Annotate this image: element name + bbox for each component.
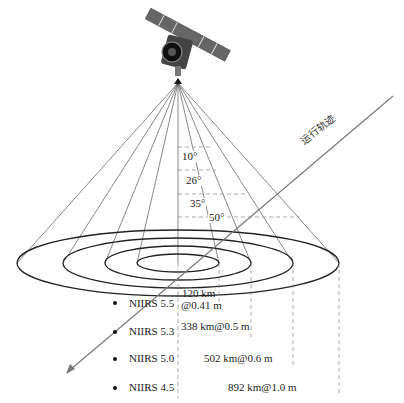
angle-label-35: 35°: [189, 198, 206, 209]
resolution-label-0-41m: @0.41 m: [181, 300, 222, 311]
niirs-label-5-3: NIIRS 5.3: [129, 326, 174, 337]
view-rays: [17, 83, 339, 263]
bullet-icon: [113, 301, 117, 305]
niirs-label-4-5: NIIRS 4.5: [129, 382, 174, 393]
niirs-label-5-5: NIIRS 5.5: [129, 298, 174, 309]
satellite-icon: [145, 8, 230, 84]
niirs-label-5-0: NIIRS 5.0: [129, 353, 174, 364]
bullet-icon: [113, 357, 117, 361]
orbit-arrow-icon: [66, 364, 75, 374]
swath-label-502km: 502 km@0.6 m: [204, 353, 273, 364]
bullet-icon: [113, 330, 117, 334]
swath-label-338km: 338 km@0.5 m: [181, 321, 250, 332]
angle-label-10: 10°: [181, 151, 198, 162]
angle-label-26: 26°: [185, 175, 202, 186]
swath-label-120km: 120 km: [182, 288, 215, 299]
bullet-icon: [113, 386, 117, 390]
swath-label-892km: 892 km@1.0 m: [228, 382, 297, 393]
angle-label-50: 50°: [208, 212, 225, 223]
